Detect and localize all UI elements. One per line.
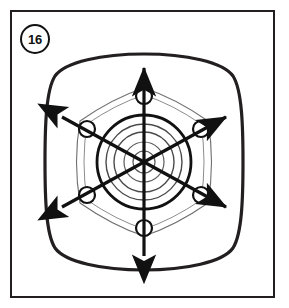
figure-screenshot: 16 (0, 0, 289, 308)
step-number-badge: 16 (20, 24, 50, 54)
step-number-label: 16 (28, 33, 42, 46)
